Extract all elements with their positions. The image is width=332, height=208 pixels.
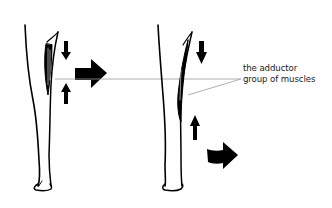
arrow-up-icon	[190, 115, 200, 140]
right-force-arrows	[190, 41, 207, 140]
curved-right-arrow-icon	[207, 142, 238, 169]
arrow-down-icon	[61, 41, 71, 60]
arrow-down-icon	[196, 41, 207, 64]
label-line-2: group of muscles	[243, 74, 315, 85]
left-force-arrows	[61, 41, 71, 104]
adductor-label: the adductor group of muscles	[243, 63, 315, 84]
arrow-up-icon	[61, 83, 71, 104]
big-right-arrow-icon	[75, 59, 107, 88]
pointer-line-diagonal	[188, 79, 241, 95]
label-line-1: the adductor	[243, 63, 315, 74]
left-leg	[25, 25, 58, 191]
adductor-diagram	[0, 0, 332, 208]
right-leg	[158, 25, 192, 191]
